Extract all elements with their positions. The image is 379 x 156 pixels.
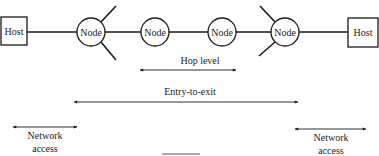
branch-link-node-4-up: [260, 6, 275, 22]
hop-level-label: Hop level: [180, 56, 219, 66]
network-access-right-line1: Network: [314, 131, 349, 144]
node-4-label: Node: [274, 28, 296, 38]
node-3-label: Node: [211, 28, 233, 38]
node-1-label: Node: [80, 28, 102, 38]
host-right-label: Host: [354, 28, 373, 38]
network-access-right-label: Network access: [314, 131, 349, 156]
branch-link-node-4-down: [259, 42, 275, 56]
branch-link-node-1-down: [101, 42, 116, 60]
branch-link-node-1-up: [101, 6, 116, 22]
entry-to-exit-label: Entry-to-exit: [164, 87, 216, 97]
node-2-label: Node: [144, 28, 166, 38]
network-access-right-line2: access: [314, 144, 349, 156]
host-left-label: Host: [5, 27, 24, 37]
network-access-left-label: Network access: [28, 129, 63, 155]
network-access-left-line1: Network: [28, 129, 63, 142]
network-access-left-line2: access: [28, 142, 63, 155]
